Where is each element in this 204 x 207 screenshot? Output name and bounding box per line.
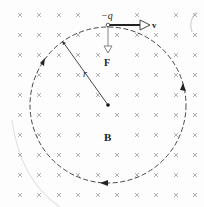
magnetic-field-diagram: −q v F r B bbox=[0, 0, 204, 207]
path-direction-arrow-bottom bbox=[100, 180, 108, 186]
velocity-label: v bbox=[152, 20, 157, 30]
center-point bbox=[106, 103, 110, 107]
field-label: B bbox=[104, 131, 112, 143]
charge-particle bbox=[106, 23, 110, 27]
path-direction-arrow-right bbox=[180, 83, 186, 91]
radius-arrow-icon bbox=[62, 41, 66, 45]
charge-label: −q bbox=[101, 10, 113, 21]
radius-label: r bbox=[83, 68, 87, 79]
force-label: F bbox=[104, 57, 110, 68]
diagram-svg: −q v F r B bbox=[0, 0, 204, 207]
force-arrowhead-icon bbox=[104, 46, 112, 53]
velocity-arrowhead-icon bbox=[140, 20, 150, 30]
